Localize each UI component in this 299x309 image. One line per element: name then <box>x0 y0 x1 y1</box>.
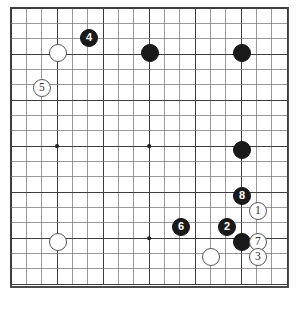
stone-move-4[interactable]: 4 <box>80 29 98 47</box>
move-number-label: 6 <box>173 219 189 235</box>
move-number-label: 8 <box>234 188 250 204</box>
stone-move-8[interactable]: 8 <box>233 187 251 205</box>
move-number-label: 3 <box>250 249 266 265</box>
move-number-label: 5 <box>34 80 50 96</box>
stone-move-6[interactable]: 6 <box>172 218 190 236</box>
move-number-label: 1 <box>250 203 266 219</box>
move-number-label: 4 <box>81 30 97 46</box>
go-diagram-root: 45816273 <box>0 0 299 309</box>
move-number-label: 2 <box>219 219 235 235</box>
stone-move-5[interactable]: 5 <box>33 79 51 97</box>
stone-move-3[interactable]: 3 <box>249 248 267 266</box>
stone-move-1[interactable]: 1 <box>249 202 267 220</box>
stone-move-2[interactable]: 2 <box>218 218 236 236</box>
